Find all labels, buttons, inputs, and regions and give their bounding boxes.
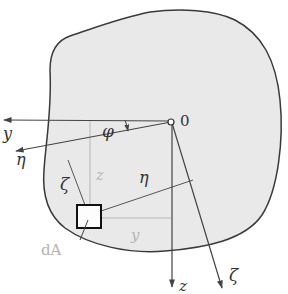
y-distance-label: y (130, 226, 140, 244)
area-element-da (77, 205, 101, 228)
angle-phi-label: φ (102, 121, 114, 141)
da-label: dA (41, 241, 62, 259)
cross-section-diagram: 0 y η z ζ φ ζ η z y dA (0, 0, 288, 294)
eta-axis-label: η (16, 150, 26, 169)
origin-point (168, 119, 174, 125)
origin-label: 0 (180, 112, 190, 130)
y-axis-label: y (2, 124, 13, 143)
zeta-axis-label: ζ (229, 265, 240, 285)
z-distance-label: z (95, 167, 104, 183)
eta-distance-label: η (139, 168, 149, 187)
z-axis-label: z (178, 277, 187, 294)
